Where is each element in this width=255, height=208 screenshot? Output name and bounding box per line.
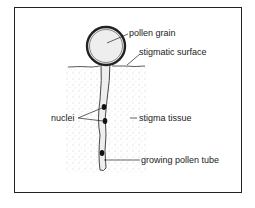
nucleus-3 — [100, 150, 105, 156]
label-growing-pollen-tube: growing pollen tube — [141, 155, 219, 165]
pollen-tube-diagram — [0, 0, 255, 208]
label-stigmatic-surface: stigmatic surface — [139, 47, 207, 57]
nucleus-2 — [103, 118, 108, 124]
pollen-grain — [87, 27, 125, 65]
label-nuclei: nuclei — [51, 113, 75, 123]
label-stigma-tissue: stigma tissue — [139, 113, 192, 123]
nucleus-1 — [102, 104, 107, 110]
label-pollen-grain: pollen grain — [129, 28, 176, 38]
